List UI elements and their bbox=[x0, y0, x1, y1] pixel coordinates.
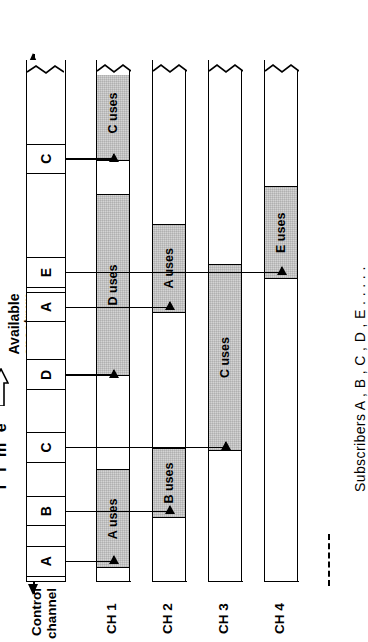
channel-continuation-dashes bbox=[328, 534, 330, 586]
control-slot-label: E bbox=[38, 268, 54, 277]
allocation-connector-1 bbox=[66, 511, 169, 512]
allocation-arrow-d-to-ch1 bbox=[113, 370, 114, 376]
control-slot-label: D bbox=[38, 370, 54, 380]
control-channel-label: Control channel bbox=[30, 588, 59, 642]
allocation-connector-3 bbox=[66, 374, 113, 375]
usage-block-label: C uses bbox=[218, 337, 232, 378]
channel-bar-ch2: B usesA uses bbox=[152, 60, 186, 582]
torn-edge-icon bbox=[265, 59, 297, 75]
allocation-arrow-c-to-ch1 bbox=[113, 154, 114, 160]
hollow-up-arrow-icon bbox=[0, 368, 9, 406]
control-channel-strip: ABCDAEC bbox=[26, 60, 66, 582]
allocation-connector-4 bbox=[66, 307, 169, 308]
usage-block-label: D uses bbox=[106, 265, 120, 306]
channel-start-cap bbox=[153, 581, 187, 582]
usage-block-ch1-a: A uses bbox=[97, 469, 129, 568]
time-axis: T i m e bbox=[0, 368, 10, 492]
torn-edge-icon bbox=[97, 59, 129, 75]
usage-block-ch1-c: C uses bbox=[97, 65, 129, 162]
allocation-arrow-c-to-ch3 bbox=[225, 442, 226, 448]
time-axis-label: T i m e bbox=[0, 420, 10, 492]
control-slot-label: C bbox=[38, 442, 54, 452]
usage-block-ch4-e: E uses bbox=[265, 186, 297, 279]
usage-block-label: B uses bbox=[162, 463, 176, 504]
allocation-connector-6 bbox=[66, 158, 113, 159]
control-slot-label: A bbox=[38, 302, 54, 312]
usage-block-label: E uses bbox=[274, 213, 288, 253]
allocation-connector-0 bbox=[66, 561, 113, 562]
usage-block-label: A uses bbox=[106, 499, 120, 540]
allocation-arrow-e-to-ch4 bbox=[281, 268, 282, 274]
control-slot-e-6: E bbox=[27, 257, 65, 287]
torn-edge-icon bbox=[153, 59, 185, 75]
channel-label-ch3: CH 3 bbox=[216, 603, 231, 634]
allocation-arrow-a-to-ch2 bbox=[169, 302, 170, 308]
usage-block-ch2-a: A uses bbox=[153, 224, 185, 313]
usage-block-ch3-c: C uses bbox=[209, 264, 241, 452]
channel-bar-ch3: C uses bbox=[208, 60, 242, 582]
spectrum-label-line1: Available bbox=[6, 294, 22, 355]
control-slot-b-2: B bbox=[27, 496, 65, 525]
control-slot-a-5: A bbox=[27, 292, 65, 322]
channel-start-cap bbox=[97, 581, 131, 582]
control-label-line2: channel bbox=[44, 588, 59, 639]
channel-label-ch2: CH 2 bbox=[160, 603, 175, 634]
usage-block-label: C uses bbox=[106, 93, 120, 134]
allocation-connector-5 bbox=[66, 272, 281, 273]
allocation-arrow-b-to-ch2 bbox=[169, 506, 170, 512]
usage-block-label: A uses bbox=[162, 248, 176, 289]
control-slot-label: A bbox=[38, 556, 54, 566]
control-slot-c-7: C bbox=[27, 144, 65, 174]
allocation-arrow-a-to-ch1 bbox=[113, 556, 114, 562]
control-slot-d-4: D bbox=[27, 359, 65, 390]
torn-edge-icon bbox=[27, 60, 65, 76]
control-slot-label: C bbox=[38, 154, 54, 164]
control-slot-label: B bbox=[38, 506, 54, 516]
allocation-connector-2 bbox=[66, 447, 225, 448]
control-slot-a-1: A bbox=[27, 546, 65, 577]
channel-bar-ch1: A usesD usesC uses bbox=[96, 60, 130, 582]
channel-label-ch4: CH 4 bbox=[272, 603, 287, 634]
subscribers-caption: Subscribers A , B , C , D , E . . . . . bbox=[352, 266, 368, 492]
control-slot-c-3: C bbox=[27, 432, 65, 463]
torn-edge-icon bbox=[209, 59, 241, 75]
usage-block-ch1-d: D uses bbox=[97, 194, 129, 377]
channel-start-cap bbox=[265, 581, 299, 582]
channel-bar-ch4: E uses bbox=[264, 60, 298, 582]
channel-start-cap bbox=[209, 581, 243, 582]
control-label-line1: Control bbox=[29, 588, 44, 636]
channel-label-ch1: CH 1 bbox=[104, 603, 119, 634]
